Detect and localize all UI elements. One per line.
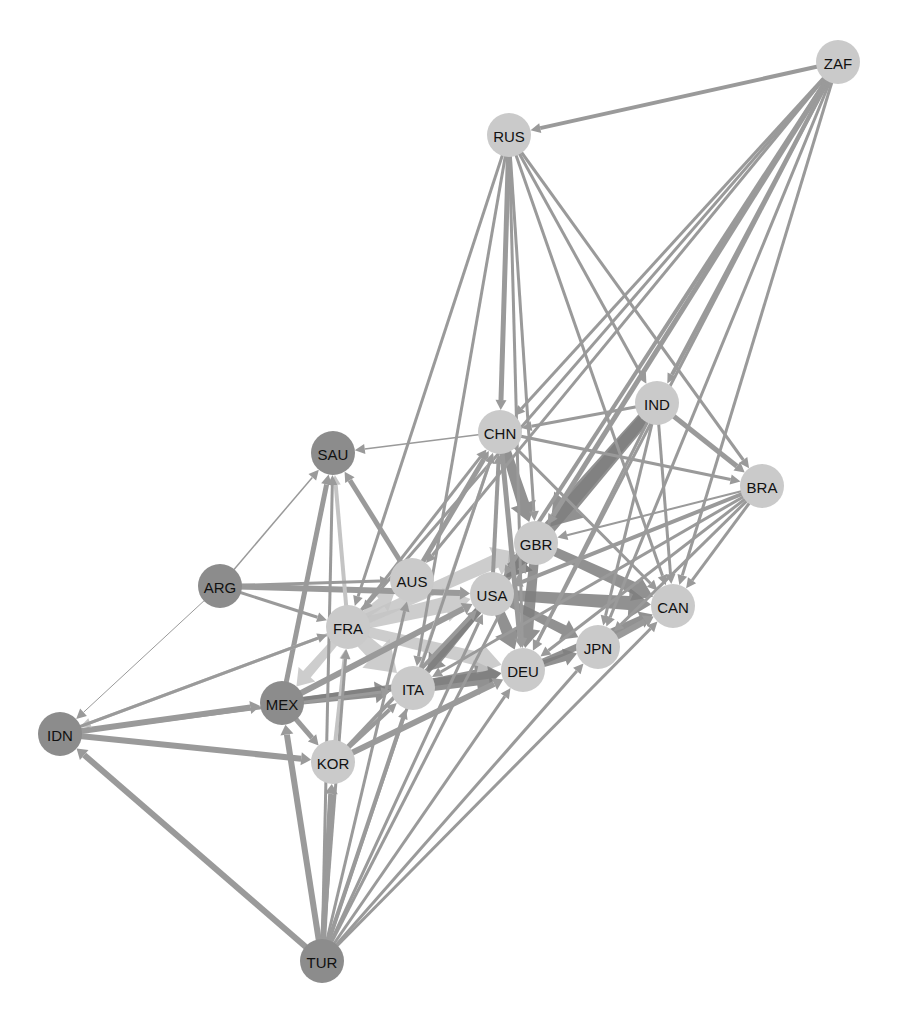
node-circle[interactable]: [390, 558, 434, 602]
node-circle[interactable]: [576, 625, 620, 669]
node-jpn[interactable]: JPN: [576, 625, 620, 669]
node-zaf[interactable]: ZAF: [816, 40, 860, 84]
node-aus[interactable]: AUS: [390, 558, 434, 602]
node-ita[interactable]: ITA: [391, 666, 435, 710]
node-bra[interactable]: BRA: [740, 464, 784, 508]
node-can[interactable]: CAN: [651, 584, 695, 628]
node-sau[interactable]: SAU: [311, 431, 355, 475]
node-circle[interactable]: [501, 648, 545, 692]
node-mex[interactable]: MEX: [260, 681, 304, 725]
node-chn[interactable]: CHN: [478, 410, 522, 454]
node-circle[interactable]: [311, 431, 355, 475]
node-tur[interactable]: TUR: [300, 939, 344, 983]
node-deu[interactable]: DEU: [501, 648, 545, 692]
node-arg[interactable]: ARG: [198, 564, 242, 608]
node-idn[interactable]: IDN: [38, 712, 82, 756]
node-circle[interactable]: [326, 605, 370, 649]
node-circle[interactable]: [391, 666, 435, 710]
node-circle[interactable]: [470, 572, 514, 616]
node-kor[interactable]: KOR: [311, 740, 355, 784]
node-circle[interactable]: [311, 740, 355, 784]
node-circle[interactable]: [198, 564, 242, 608]
network-diagram: ZAFRUSINDCHNSAUBRAGBRARGAUSUSACANFRAJPND…: [0, 0, 898, 1015]
node-usa[interactable]: USA: [470, 572, 514, 616]
node-rus[interactable]: RUS: [487, 113, 531, 157]
node-circle[interactable]: [300, 939, 344, 983]
node-circle[interactable]: [38, 712, 82, 756]
node-ind[interactable]: IND: [635, 381, 679, 425]
node-gbr[interactable]: GBR: [514, 521, 558, 565]
node-circle[interactable]: [740, 464, 784, 508]
node-circle[interactable]: [651, 584, 695, 628]
node-circle[interactable]: [487, 113, 531, 157]
node-fra[interactable]: FRA: [326, 605, 370, 649]
node-circle[interactable]: [635, 381, 679, 425]
node-circle[interactable]: [478, 410, 522, 454]
node-circle[interactable]: [260, 681, 304, 725]
node-circle[interactable]: [816, 40, 860, 84]
node-circle[interactable]: [514, 521, 558, 565]
